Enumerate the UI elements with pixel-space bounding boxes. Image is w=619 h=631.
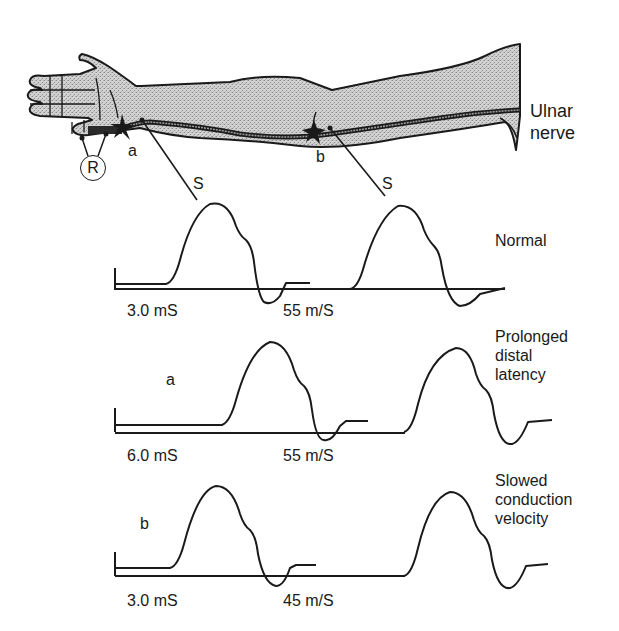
trace-prolonged-distal-latency (115, 342, 552, 444)
stim-site-a-label: a (128, 141, 137, 160)
latency-label-slowed: 3.0 mS (127, 591, 178, 610)
condition-label-normal: Normal (495, 231, 547, 250)
recording-electrode-label: R (80, 155, 106, 181)
row-marker-a: a (166, 370, 175, 389)
ulnar-nerve-label: Ulnar nerve (530, 100, 575, 144)
stim-a-label: S (193, 174, 204, 193)
trace-slowed-conduction-velocity (115, 486, 548, 588)
latency-label-normal: 3.0 mS (127, 301, 178, 320)
velocity-label-normal: 55 m/S (283, 301, 334, 320)
row-marker-b: b (140, 514, 149, 533)
condition-label-prolonged-distal-latency: Prolonged distal latency (495, 327, 568, 384)
velocity-label-slowed: 45 m/S (283, 591, 334, 610)
trace-normal (115, 203, 505, 306)
latency-label-prolonged: 6.0 mS (127, 446, 178, 465)
stim-site-b-label: b (316, 147, 325, 166)
velocity-label-prolonged: 55 m/S (283, 446, 334, 465)
arm-silhouette (28, 44, 520, 150)
stim-b-label: S (382, 174, 393, 193)
condition-label-slowed-conduction: Slowed conduction velocity (495, 471, 572, 528)
